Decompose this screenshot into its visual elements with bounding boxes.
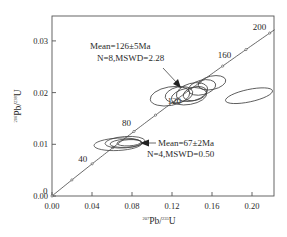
concordia-age-marker xyxy=(245,49,247,51)
concordia-age-marker xyxy=(154,114,156,116)
concordia-curve: 04080120160200 xyxy=(43,22,275,197)
concordia-age-marker xyxy=(133,130,135,132)
x-tick-label: 0.08 xyxy=(125,201,140,211)
annotation-young-mean: Mean=67±2Ma xyxy=(158,138,214,148)
x-axis-title: 207Pb/235U xyxy=(142,216,175,226)
x-tick-label: 0.12 xyxy=(165,201,180,211)
x-tick-label: 0.20 xyxy=(245,201,260,211)
x-tick-label: 0.04 xyxy=(85,201,101,211)
error-ellipse xyxy=(224,85,274,107)
svg-text:207Pb/235U: 207Pb/235U xyxy=(142,216,175,226)
concordia-age-label: 160 xyxy=(218,50,232,60)
y-tick-label: 0.03 xyxy=(33,36,48,46)
x-tick-label: 0.00 xyxy=(45,201,60,211)
annotation-old-mswd: N=8,MSWD=2.28 xyxy=(97,53,165,63)
chart-svg: 0.000.040.080.120.160.200.000.010.020.03… xyxy=(0,0,287,237)
concordia-age-marker xyxy=(269,32,271,34)
concordia-age-label: 40 xyxy=(78,154,88,164)
y-axis-title: 206Pb/238U xyxy=(13,89,23,122)
concordia-age-marker xyxy=(222,65,224,67)
ellipse-group xyxy=(94,135,146,152)
svg-text:206Pb/238U: 206Pb/238U xyxy=(13,89,23,122)
concordia-chart: 0.000.040.080.120.160.200.000.010.020.03… xyxy=(0,0,287,237)
annotation-old-mean: Mean=126±5Ma xyxy=(90,41,151,51)
concordia-age-label: 200 xyxy=(253,22,267,32)
concordia-age-marker xyxy=(71,179,73,181)
concordia-age-label: 80 xyxy=(122,118,131,128)
x-tick-label: 0.16 xyxy=(205,201,220,211)
annotation-arrow-line xyxy=(163,68,177,83)
annotation-young-mswd: N=4,MSWD=0.50 xyxy=(147,149,215,159)
concordia-age-marker xyxy=(51,195,53,197)
y-tick-label: 0.02 xyxy=(33,88,48,98)
concordia-age-marker xyxy=(91,163,93,165)
y-tick-label: 0.01 xyxy=(33,139,48,149)
concordia-age-label: 0 xyxy=(43,186,48,196)
